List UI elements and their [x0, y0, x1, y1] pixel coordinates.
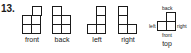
front-cell [31, 24, 41, 34]
top-right-direction: right [177, 23, 187, 29]
top-cell [166, 21, 176, 31]
back-view: back [52, 6, 72, 46]
back-cell [61, 24, 71, 34]
top-front-direction: front [162, 32, 172, 38]
problem-number: 13. [1, 3, 15, 14]
left-view: left [86, 6, 106, 46]
front-view: front [22, 6, 42, 46]
top-label: top [157, 40, 177, 47]
top-left-direction: left [149, 23, 156, 29]
back-label: back [50, 36, 74, 43]
top-back-direction: back [162, 5, 173, 11]
right-label: right [116, 36, 140, 43]
right-view: right [118, 6, 138, 46]
top-view: back left right front top [157, 5, 191, 53]
right-cell [127, 24, 137, 34]
left-cell [96, 24, 106, 34]
left-label: left [85, 36, 109, 43]
front-label: front [20, 36, 44, 43]
